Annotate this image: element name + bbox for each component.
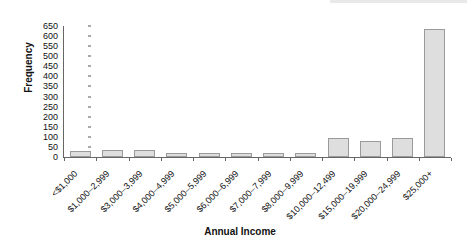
bar xyxy=(295,153,316,157)
x-tick-mark xyxy=(193,158,194,161)
bar xyxy=(328,138,349,157)
y-tick-label: 550 xyxy=(28,42,58,51)
x-tick-mark xyxy=(64,158,65,161)
bar xyxy=(134,150,155,157)
y-tick-label: 350 xyxy=(28,82,58,91)
bar-chart: Frequency 650600550500450400350300250200… xyxy=(0,0,467,252)
y-tick-label: 150 xyxy=(28,122,58,131)
scan-artifact xyxy=(330,0,467,3)
x-tick-mark xyxy=(387,158,388,161)
bar xyxy=(70,151,91,157)
bar xyxy=(102,150,123,157)
x-tick-mark xyxy=(225,158,226,161)
x-tick-label: <$1,000 xyxy=(49,168,79,198)
bar xyxy=(392,138,413,157)
x-tick-mark xyxy=(129,158,130,161)
x-tick-mark xyxy=(161,158,162,161)
bar xyxy=(424,29,445,157)
y-tick-label: 400 xyxy=(28,72,58,81)
bar xyxy=(199,153,220,157)
bar xyxy=(231,153,252,157)
x-tick-mark xyxy=(258,158,259,161)
y-tick-label: 50 xyxy=(28,142,58,151)
y-tick-label: 600 xyxy=(28,32,58,41)
x-tick-label: $25,000+ xyxy=(401,168,435,202)
x-tick-mark xyxy=(322,158,323,161)
y-axis-tick-labels: 650600550500450400350300250200150100500 xyxy=(28,22,58,158)
y-tick-label: 200 xyxy=(28,112,58,121)
plot-area xyxy=(64,26,451,157)
x-tick-mark xyxy=(96,158,97,161)
x-tick-mark xyxy=(290,158,291,161)
x-axis-title: Annual Income xyxy=(150,226,330,237)
x-tick-mark xyxy=(419,158,420,161)
x-tick-mark xyxy=(451,158,452,161)
y-tick-label: 100 xyxy=(28,132,58,141)
bar xyxy=(263,153,284,157)
y-tick-label: 0 xyxy=(28,153,58,162)
bar xyxy=(166,153,187,157)
y-tick-label: 300 xyxy=(28,92,58,101)
x-tick-mark xyxy=(354,158,355,161)
y-tick-label: 450 xyxy=(28,62,58,71)
bar xyxy=(360,141,381,157)
y-tick-label: 500 xyxy=(28,52,58,61)
y-tick-label: 650 xyxy=(28,22,58,31)
y-tick-label: 250 xyxy=(28,102,58,111)
